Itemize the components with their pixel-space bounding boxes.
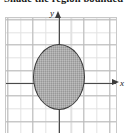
plot-frame (5, 17, 117, 135)
shaded-ellipse (33, 44, 85, 110)
x-axis-label: x (120, 78, 124, 88)
coordinate-figure: y x (0, 7, 129, 135)
figure-screenshot: Shade the region bounded y x (0, 0, 129, 135)
instruction-clip: Shade the region bounded (0, 0, 129, 7)
y-axis-label: y (50, 8, 54, 18)
arrow-up-icon (55, 11, 61, 18)
arrow-right-icon (112, 79, 119, 85)
instruction-text: Shade the region bounded (4, 0, 129, 4)
bottom-crop-strip (0, 133, 129, 135)
